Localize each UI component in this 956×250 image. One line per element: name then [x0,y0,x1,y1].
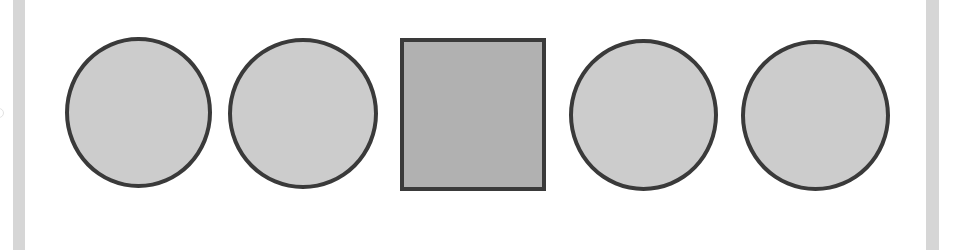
right-side-bar [926,0,939,250]
square-shape [400,38,546,191]
circle-shape-4 [741,40,890,191]
diagram-canvas [0,0,956,250]
left-side-bar [13,0,25,250]
circle-shape-3 [569,39,718,191]
circle-shape-2 [228,38,378,189]
edge-circle-mark-icon [0,108,4,118]
circle-shape-1 [65,37,212,188]
